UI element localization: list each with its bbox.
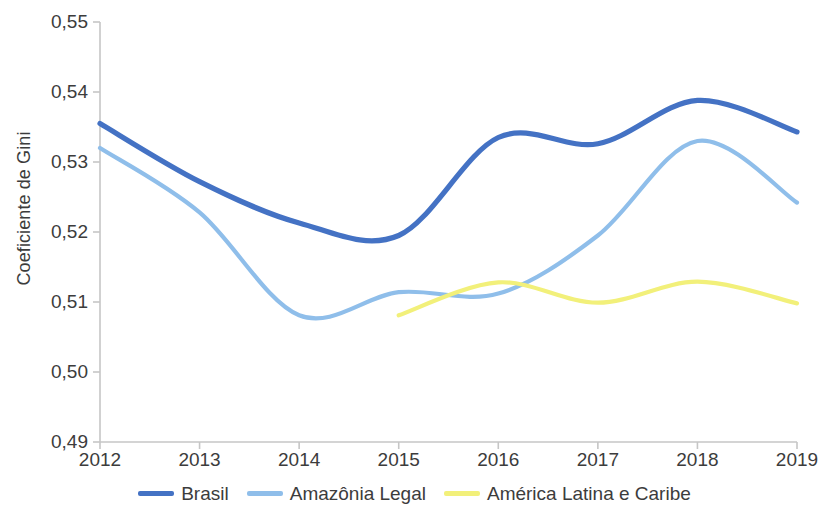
legend-color-swatch [138,491,174,496]
series-line [399,282,797,316]
legend-color-swatch [247,491,283,496]
x-tick-label: 2016 [453,450,543,469]
series-line [100,141,797,319]
legend-label: Brasil [181,484,229,503]
legend-item[interactable]: América Latina e Caribe [444,484,691,503]
line-chart: Coeficiente de Gini 0,490,500,510,520,53… [0,0,829,512]
x-tick-label: 2017 [553,450,643,469]
x-tick-label: 2012 [55,450,145,469]
legend-item[interactable]: Amazônia Legal [247,484,426,503]
y-axis-ticks [93,22,100,442]
x-axis-ticks [100,442,797,449]
legend-item[interactable]: Brasil [138,484,229,503]
x-tick-label: 2019 [752,450,829,469]
plot-area [0,0,829,512]
x-tick-label: 2013 [155,450,245,469]
legend-label: Amazônia Legal [290,484,426,503]
x-tick-label: 2018 [652,450,742,469]
axis-lines [100,22,797,442]
x-tick-label: 2015 [354,450,444,469]
chart-legend: BrasilAmazônia LegalAmérica Latina e Car… [0,484,829,503]
x-tick-label: 2014 [254,450,344,469]
series-lines [100,100,797,318]
legend-label: América Latina e Caribe [487,484,691,503]
legend-color-swatch [444,491,480,496]
